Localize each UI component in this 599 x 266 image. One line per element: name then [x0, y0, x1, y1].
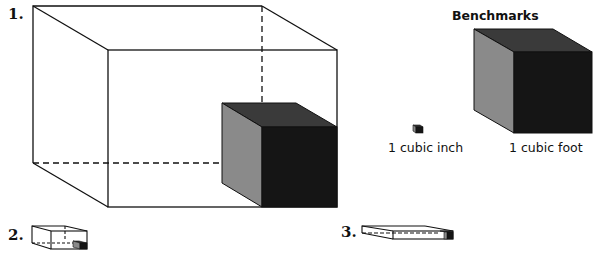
problem-number-2: 2. — [8, 226, 24, 244]
cubic-foot-label: 1 cubic foot — [509, 140, 583, 155]
benchmark-cubic-foot — [474, 29, 592, 133]
problem-number-3: 3. — [341, 223, 357, 241]
diagram-canvas — [0, 0, 599, 266]
cubic-foot-in-prism-1 — [222, 103, 337, 207]
benchmarks-title: Benchmarks — [452, 8, 539, 23]
cubic-foot-in-prism-2 — [73, 241, 87, 249]
cubic-foot-in-prism-3 — [440, 231, 453, 239]
prism-3 — [362, 226, 453, 239]
benchmark-cubic-inch — [413, 125, 423, 133]
cubic-inch-label: 1 cubic inch — [388, 140, 463, 155]
problem-number-1: 1. — [8, 5, 24, 23]
